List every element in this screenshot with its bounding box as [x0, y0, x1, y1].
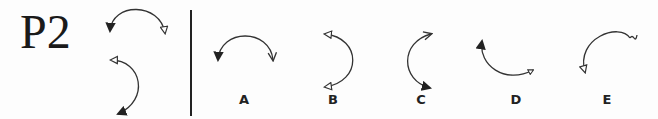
option-e-label: E	[597, 92, 617, 107]
option-b-figure	[325, 34, 353, 87]
option-d-figure	[482, 41, 533, 75]
wavy-arrowhead	[630, 35, 637, 39]
option-a-figure	[218, 36, 273, 60]
option-c-label: C	[411, 92, 431, 107]
option-d-label: D	[506, 92, 526, 107]
stimulus-arc-top	[110, 9, 165, 33]
option-b-label: B	[323, 92, 343, 107]
stimulus-arc-bottom	[111, 60, 138, 114]
puzzle-canvas: P2	[0, 0, 658, 119]
option-a-label: A	[234, 92, 254, 107]
option-c-figure	[408, 34, 431, 88]
option-e-figure	[584, 32, 637, 72]
